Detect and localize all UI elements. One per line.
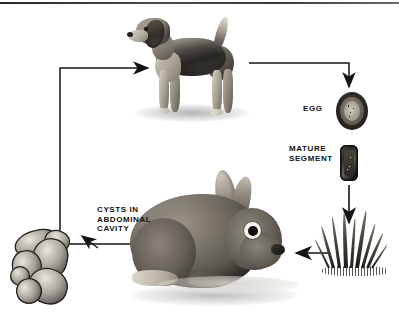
cysts-illustration	[10, 228, 82, 312]
rabbit-pupil	[248, 226, 258, 236]
mature-segment-texture	[344, 150, 354, 176]
dog-shadow	[134, 104, 250, 122]
grass-illustration	[322, 212, 388, 280]
arrow-dog-to-egg	[249, 63, 349, 87]
rabbit-illustration	[128, 172, 300, 312]
dog-paw-front	[158, 108, 170, 114]
mature-segment-illustration	[340, 145, 358, 181]
grass-blade	[342, 212, 348, 268]
diagram-canvas: EGG MATURE SEGMENT	[0, 0, 399, 321]
dog-eye	[144, 27, 148, 31]
egg-illustration	[336, 92, 368, 130]
dog-illustration	[128, 8, 256, 126]
pointer-cysts-label	[82, 236, 98, 248]
mature-segment-label: MATURE SEGMENT	[289, 144, 333, 163]
rabbit-nose	[271, 244, 285, 255]
egg-label: EGG	[303, 104, 323, 114]
dog-nose	[127, 32, 133, 37]
rabbit-ground	[158, 276, 298, 294]
egg-embryo	[344, 101, 360, 121]
dog-leg-back-left	[212, 70, 222, 113]
dog-leg-back-right	[223, 69, 233, 113]
grass-ground	[322, 266, 388, 276]
dog-paw-back	[211, 109, 223, 115]
dog-leg-front-left	[159, 70, 169, 112]
cysts-label: CYSTS IN ABDOMINAL CAVITY	[97, 205, 151, 234]
